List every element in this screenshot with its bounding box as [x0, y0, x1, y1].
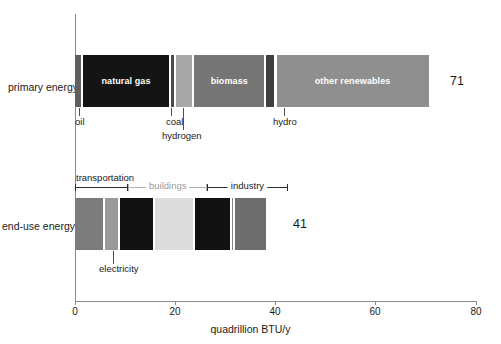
callout-hydro: hydro — [273, 116, 297, 127]
segment-segment-5 — [195, 198, 230, 250]
bracket-cap-l — [75, 184, 76, 191]
coal-leader-line — [171, 108, 172, 116]
end-use-energy-bar — [75, 198, 268, 250]
bracket-label-industry: industry — [228, 180, 267, 191]
oil-leader-line — [79, 108, 80, 116]
x-axis-line — [75, 301, 477, 302]
bracket-line — [75, 187, 128, 188]
callout-hydrogen: hydrogen — [162, 130, 202, 141]
callout-electricity: electricity — [99, 263, 139, 274]
energy-flow-bar-chart: 0 20 40 60 80 quadrillion BTU/y primary … — [0, 0, 501, 344]
bracket-buildings: buildings — [128, 184, 207, 191]
segment-label-other-renewables: other renewables — [315, 76, 391, 86]
cropped-title-text — [270, 0, 470, 10]
hydrogen-leader-line — [183, 108, 184, 130]
segment-hydrogen — [176, 55, 192, 107]
transportation-sector-label: transportation — [76, 172, 134, 183]
bracket-transportation — [75, 184, 128, 191]
segment-biomass: biomass — [194, 55, 264, 107]
primary-energy-bar: natural gasbiomassother renewables — [75, 55, 431, 107]
segment-other-renewables: other renewables — [277, 55, 429, 107]
segment-segment-4 — [155, 198, 193, 250]
segment-electricity — [105, 198, 118, 250]
segment-segment-3 — [120, 198, 153, 250]
segment-segment-1 — [75, 198, 103, 250]
x-tick-label-40: 40 — [269, 306, 280, 317]
end-use-energy-total-value: 41 — [293, 217, 307, 231]
bracket-cap-r — [287, 184, 288, 191]
bracket-industry: industry — [207, 184, 287, 191]
segment-label-biomass: biomass — [211, 76, 248, 86]
x-tick-label-60: 60 — [369, 306, 380, 317]
segment-natural-gas: natural gas — [83, 55, 169, 107]
x-tick-40 — [275, 301, 276, 305]
x-axis-title: quadrillion BTU/y — [0, 323, 501, 335]
primary-energy-row-label: primary energy — [8, 81, 71, 93]
x-tick-label-80: 80 — [470, 306, 481, 317]
segment-oil — [75, 55, 81, 107]
segment-label-natural-gas: natural gas — [101, 76, 150, 86]
x-tick-20 — [175, 301, 176, 305]
x-tick-60 — [375, 301, 376, 305]
primary-energy-total-value: 71 — [450, 74, 464, 88]
segment-hydro — [266, 55, 274, 107]
callout-coal: coal — [166, 116, 183, 127]
x-tick-80 — [476, 301, 477, 305]
segment-segment-7 — [235, 198, 266, 250]
segment-segment-6 — [232, 198, 233, 250]
callout-oil: oil — [75, 116, 85, 127]
bracket-cap-l — [207, 184, 208, 191]
x-tick-label-0: 0 — [72, 306, 78, 317]
end-use-energy-row-label: end-use energy — [2, 220, 71, 232]
segment-coal — [171, 55, 174, 107]
bracket-cap-l — [128, 184, 129, 191]
hydro-leader-line — [284, 108, 285, 116]
bracket-label-buildings: buildings — [146, 180, 190, 191]
x-tick-label-20: 20 — [169, 306, 180, 317]
x-tick-0 — [75, 301, 76, 305]
